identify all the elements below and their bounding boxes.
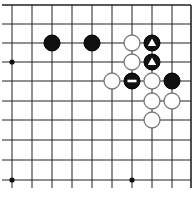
minus-mark-icon bbox=[128, 80, 137, 83]
black-stone bbox=[144, 35, 160, 51]
white-stone bbox=[104, 73, 120, 89]
star-point bbox=[9, 59, 14, 64]
go-board-diagram bbox=[0, 0, 193, 197]
white-stone bbox=[144, 73, 160, 89]
black-stone bbox=[44, 35, 60, 51]
black-stone bbox=[84, 35, 100, 51]
white-stone bbox=[144, 112, 160, 128]
black-stone bbox=[144, 54, 160, 70]
white-stone bbox=[164, 93, 180, 109]
white-stone bbox=[124, 54, 140, 70]
star-point bbox=[129, 177, 134, 182]
black-stone bbox=[124, 73, 140, 89]
star-point bbox=[9, 177, 14, 182]
black-stone bbox=[164, 73, 180, 89]
board-grid bbox=[2, 5, 191, 188]
white-stone bbox=[144, 93, 160, 109]
white-stone bbox=[124, 35, 140, 51]
